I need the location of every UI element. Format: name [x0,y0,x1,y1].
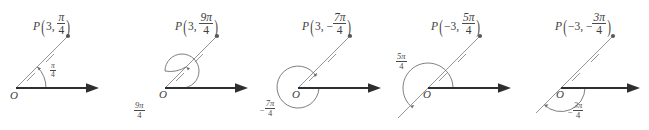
ray-tick-2 [458,54,466,62]
angle-denominator: 4 [134,111,145,121]
close-paren: ) [214,19,218,37]
close-paren: ) [607,19,611,37]
theta-numerator: 5π [462,11,476,24]
point-label: P(3, 9π4) [175,11,219,37]
open-paren: ( [41,19,45,37]
origin-label: O [423,89,431,100]
origin-label: O [10,90,18,101]
ray-tick-1 [27,73,35,81]
point-theta-fraction: π4 [57,11,65,37]
polar-axis-arrowhead [86,83,99,93]
theta-denominator: 4 [592,24,606,37]
ray-tick-2 [195,54,203,62]
open-paren: ( [310,19,314,37]
terminal-ray [428,36,480,88]
ray-tick-1 [572,73,580,81]
point-name: P [33,20,40,32]
point-theta-fraction: 9π4 [199,11,213,37]
point-label: P(−3, 5π4) [431,11,481,37]
theta-numerator: 7π [333,11,347,24]
origin-label: O [292,89,300,100]
theta-numerator: 9π [199,11,213,24]
point-name: P [555,20,562,32]
close-paren: ) [477,19,481,37]
theta-denominator: 4 [57,24,65,37]
angle-denominator: 4 [265,109,276,119]
angle-label: π4 [50,62,56,79]
close-paren: ) [66,19,70,37]
terminal-ray [16,36,68,88]
angle-fraction: 5π4 [396,52,407,72]
angle-label: 9π4 [134,101,145,121]
close-paren: ) [348,19,352,37]
open-paren: ( [439,19,443,37]
point-label: P(3, π4) [33,11,71,37]
polar-figure-3: P(3, −7π4) −7π4 O [260,0,390,130]
ray-tick-1 [439,73,447,81]
terminal-ray [298,36,350,88]
ray-tick-2 [591,54,599,62]
theta-numerator: π [57,11,65,24]
point-label: P(3, −7π4) [302,11,352,37]
angle-denominator: 4 [50,71,56,79]
ray-tick-1 [176,73,184,81]
angle-label: 5π4 [396,52,407,72]
origin-label: O [159,89,167,100]
angle-fraction: 7π4 [265,99,276,119]
point-name: P [302,20,309,32]
angle-denominator: 4 [396,62,407,72]
angle-fraction: π4 [50,62,56,79]
terminal-ray [561,36,613,88]
angle-label: −7π4 [260,99,275,119]
polar-figure-4: P(−3, 5π4) 5π4 O [390,0,520,130]
angle-fraction: 3π4 [573,101,584,121]
theta-numerator: 3π [592,11,606,24]
polar-axis-arrowhead [368,83,381,93]
terminal-ray [165,36,217,88]
point-theta-fraction: 7π4 [333,11,347,37]
polar-axis-arrowhead [627,83,640,93]
angle-label: −3π4 [568,101,583,121]
angle-denominator: 4 [573,111,584,121]
point-theta-fraction: 5π4 [462,11,476,37]
point-name: P [175,20,182,32]
open-paren: ( [183,19,187,37]
angle-arc [37,67,46,88]
ray-tick-2 [328,54,336,62]
polar-figure-2: P(3, 9π4) 9π4 O [130,0,260,130]
polar-axis-arrowhead [498,83,511,93]
theta-denominator: 4 [333,24,347,37]
polar-figure-1: P(3, π4) π4 O [0,0,130,130]
point-name: P [431,20,438,32]
polar-axis-arrowhead [235,83,248,93]
angle-arc-arrowhead [186,67,190,71]
origin-label: O [556,89,564,100]
polar-figure-5: P(−3, −3π4) −3π4 O [519,0,649,130]
point-label: P(−3, −3π4) [555,11,612,37]
point-theta-fraction: 3π4 [592,11,606,37]
theta-denominator: 4 [462,24,476,37]
open-paren: ( [563,19,567,37]
polar-figures-row: P(3, π4) π4 O P(3, 9π4) 9π4 O [0,0,649,130]
angle-fraction: 9π4 [134,101,145,121]
theta-denominator: 4 [199,24,213,37]
